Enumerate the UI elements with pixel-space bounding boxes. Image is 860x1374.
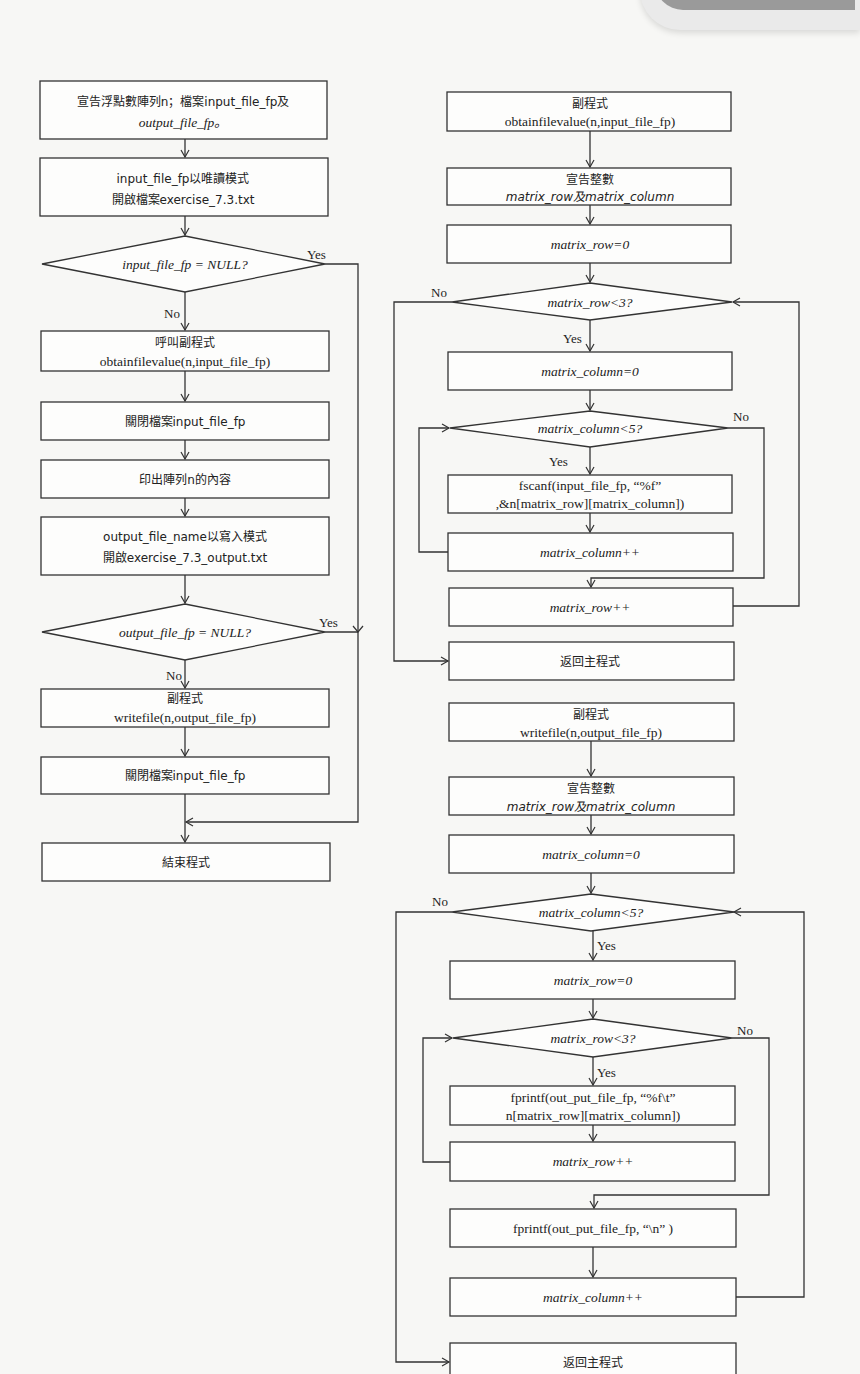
check-output-text: output_file_fp = NULL? — [119, 625, 251, 640]
call-obtain-line2: obtainfilevalue(n,input_file_fp) — [100, 354, 271, 369]
declare-box — [40, 81, 327, 139]
write-check-row-yes-label: Yes — [597, 1065, 616, 1080]
obtain-check-row-yes-label: Yes — [563, 331, 582, 346]
write-fprintf-val-line1: fprintf(out_put_file_fp, “%f\t” — [511, 1090, 676, 1105]
obtain-declare-line1: 宣告整數 — [566, 172, 614, 187]
open-input-box — [40, 158, 328, 216]
check-output-yes-label: Yes — [319, 615, 338, 630]
declare-line2: output_file_fp。 — [139, 115, 228, 130]
obtain-declare-line2: matrix_row及matrix_column — [506, 190, 675, 204]
obtain-check-row-text: matrix_row<3? — [547, 295, 632, 310]
call-write-line2: writefile(n,output_file_fp) — [114, 710, 256, 725]
check-input-yes-label: Yes — [307, 247, 326, 262]
write-inc-col-text: matrix_column++ — [543, 1290, 643, 1305]
open-output-line2: 開啟exercise_7.3_output.txt — [103, 550, 268, 565]
write-declare-line2: matrix_row及matrix_column — [507, 800, 676, 814]
print-array-text: 印出陣列n的內容 — [139, 472, 231, 487]
write-check-row-no-label: No — [737, 1023, 753, 1038]
main-flow: 宣告浮點數陣列n；檔案input_file_fp及 output_file_fp… — [40, 81, 363, 881]
write-flow: 副程式 writefile(n,output_file_fp) 宣告整數 mat… — [396, 703, 804, 1374]
obtain-header-line2: obtainfilevalue(n,input_file_fp) — [505, 114, 676, 129]
open-input-line2: 開啟檔案exercise_7.3.txt — [112, 192, 255, 207]
write-inc-row-text: matrix_row++ — [553, 1154, 634, 1169]
write-col-exit — [396, 912, 452, 1362]
write-row-loop-back — [423, 1038, 452, 1162]
write-declare-line1: 宣告整數 — [567, 781, 615, 796]
write-init-row-text: matrix_row=0 — [554, 973, 633, 988]
write-check-col-text: matrix_column<5? — [539, 905, 644, 920]
obtain-check-col-text: matrix_column<5? — [538, 421, 643, 436]
close-file-text: 關閉檔案input_file_fp — [125, 768, 246, 783]
obtain-fscanf-line1: fscanf(input_file_fp, “%f” — [519, 478, 661, 493]
obtain-fscanf-line2: ,&n[matrix_row][matrix_column]) — [496, 496, 685, 511]
obtain-check-col-no-label: No — [733, 409, 749, 424]
obtain-flow: 副程式 obtainfilevalue(n,input_file_fp) 宣告整… — [394, 92, 799, 680]
call-write-line1: 副程式 — [167, 691, 203, 706]
open-output-box — [41, 517, 329, 575]
write-return-text: 返回主程式 — [563, 1355, 623, 1370]
end-text: 結束程式 — [162, 855, 210, 870]
obtain-inc-row-text: matrix_row++ — [550, 600, 631, 615]
obtain-row-exit — [394, 302, 452, 661]
obtain-inc-col-text: matrix_column++ — [540, 545, 640, 560]
open-output-line1: output_file_name以寫入模式 — [103, 529, 267, 544]
obtain-row-loop-back — [733, 302, 799, 606]
check-input-no-label: No — [164, 306, 180, 321]
write-check-row-text: matrix_row<3? — [550, 1031, 635, 1046]
obtain-check-col-yes-label: Yes — [549, 454, 568, 469]
obtain-check-row-no-label: No — [431, 285, 447, 300]
write-check-col-yes-label: Yes — [597, 938, 616, 953]
obtain-col-loop-back — [419, 428, 449, 552]
declare-line1: 宣告浮點數陣列n；檔案input_file_fp及 — [77, 94, 290, 109]
write-header-line2: writefile(n,output_file_fp) — [520, 725, 662, 740]
write-init-col-text: matrix_column=0 — [542, 847, 640, 862]
write-fprintf-val-line2: n[matrix_row][matrix_column]) — [506, 1108, 681, 1123]
obtain-init-row-text: matrix_row=0 — [551, 237, 630, 252]
call-obtain-line1: 呼叫副程式 — [155, 335, 215, 350]
check-output-no-label: No — [166, 668, 182, 683]
obtain-return-text: 返回主程式 — [560, 654, 620, 669]
write-check-col-no-label: No — [432, 894, 448, 909]
open-input-line1: input_file_fp以唯讀模式 — [117, 172, 250, 186]
write-fprintf-nl-text: fprintf(out_put_file_fp, “\n” ) — [513, 1221, 673, 1236]
write-header-line1: 副程式 — [573, 707, 609, 722]
check-input-text: input_file_fp = NULL? — [122, 257, 248, 272]
obtain-header-line1: 副程式 — [572, 96, 608, 111]
close-input-text: 關閉檔案input_file_fp — [125, 414, 246, 429]
obtain-init-col-text: matrix_column=0 — [541, 364, 639, 379]
